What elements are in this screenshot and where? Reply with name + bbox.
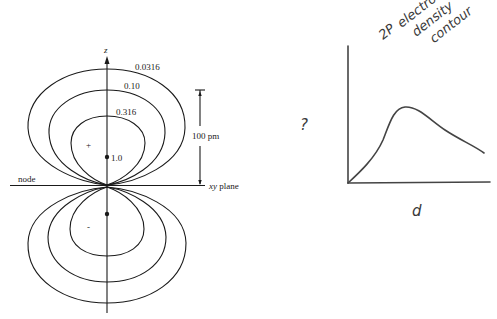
contour-upper-inner xyxy=(71,116,145,185)
node-label: node xyxy=(18,174,36,184)
z-axis-arrowhead-icon xyxy=(105,56,110,64)
xy-plane-label: xy plane xyxy=(208,181,239,191)
scale-bar-label: 100 pm xyxy=(192,131,219,141)
orbital-diagram: z 0.0316 0.10 0.316 1.0 + - node xy plan… xyxy=(0,0,497,319)
contour-label-1.0: 1.0 xyxy=(111,153,123,163)
contour-plot: z 0.0316 0.10 0.316 1.0 + - node xy plan… xyxy=(10,45,239,313)
hand-drawn-graph: 2P electron density contour ? d xyxy=(300,0,490,220)
graph-y-axis-label: ? xyxy=(300,116,308,134)
contour-label-0.316: 0.316 xyxy=(116,107,137,117)
contour-label-0.10: 0.10 xyxy=(124,81,140,91)
density-curve xyxy=(348,107,484,183)
max-density-point-upper xyxy=(105,155,109,159)
annotation: 2P electron density contour xyxy=(376,0,477,69)
graph-x-axis-label: d xyxy=(412,202,422,220)
graph-x-axis xyxy=(348,182,490,183)
scale-bar-arrow-up-icon xyxy=(198,91,201,96)
z-axis-label: z xyxy=(103,45,108,55)
positive-sign: + xyxy=(86,140,91,150)
contour-label-0.0316: 0.0316 xyxy=(135,62,160,72)
scale-bar-arrow-down-icon xyxy=(198,180,201,185)
annotation-line-1: 2P xyxy=(376,21,398,43)
max-density-point-lower xyxy=(105,212,109,216)
negative-sign: - xyxy=(87,222,90,232)
